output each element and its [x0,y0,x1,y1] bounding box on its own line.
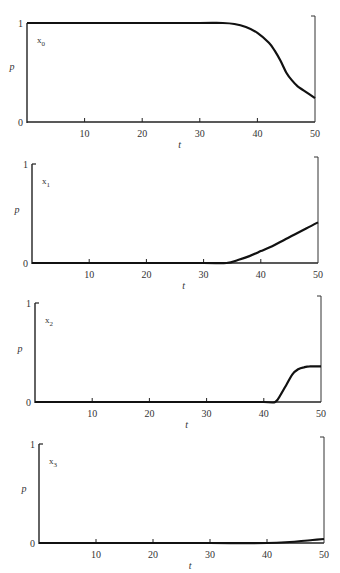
y-axis-title: p [17,343,23,354]
y-axis-title: p [14,204,20,215]
y-tick-label-1: 1 [26,298,31,309]
series-label-subscript: 2 [50,320,54,328]
x-tick-label: 30 [195,128,205,139]
x-tick-label: 50 [313,269,323,280]
y-tick-label-0: 0 [26,397,31,408]
x-tick-label: 20 [137,128,147,139]
x-tick-label: 20 [148,549,158,560]
series-label: x0 [37,35,46,48]
y-tick-label-1: 1 [30,439,35,450]
y-axis-title: p [9,61,15,72]
x-tick-label: 40 [259,408,269,419]
x-tick-label: 40 [262,549,272,560]
figure: 102030405001ptx0102030405001ptx110203040… [0,0,340,573]
x-tick-label: 50 [310,128,320,139]
x-tick-label: 50 [319,549,329,560]
y-tick-label-0: 0 [23,258,28,269]
data-line-x0 [27,23,315,98]
x-axis-title: t [178,139,181,150]
data-line-x2 [35,366,321,402]
panel-x2: 102030405001ptx2 [17,296,327,430]
series-label-subscript: 0 [42,40,46,48]
data-line-x3 [39,539,324,543]
x-tick-label: 20 [144,408,154,419]
data-line-x1 [32,222,318,263]
x-tick-label: 30 [202,408,212,419]
y-tick-label-1: 1 [18,18,23,29]
panel-x1: 102030405001ptx1 [14,157,324,291]
y-tick-label-0: 0 [30,538,35,549]
x-tick-label: 10 [91,549,101,560]
x-tick-label: 30 [199,269,209,280]
x-tick-label: 10 [84,269,94,280]
x-axis-title: t [185,419,188,430]
panel-x3: 102030405001ptx3 [21,437,330,571]
x-axis-title: t [189,560,192,571]
y-axis-title: p [21,483,27,494]
series-label: x2 [45,315,54,328]
x-tick-label: 30 [205,549,215,560]
panel-x0: 102030405001ptx0 [9,16,321,150]
x-tick-label: 10 [80,128,90,139]
x-tick-label: 40 [252,128,262,139]
series-label-subscript: 3 [54,461,58,469]
series-label-subscript: 1 [47,181,51,189]
series-label: x1 [42,176,51,189]
x-tick-label: 10 [87,408,97,419]
series-label: x3 [49,456,58,469]
x-axis-title: t [182,280,185,291]
y-tick-label-1: 1 [23,159,28,170]
y-tick-label-0: 0 [18,117,23,128]
x-tick-label: 50 [316,408,326,419]
x-tick-label: 20 [141,269,151,280]
x-tick-label: 40 [256,269,266,280]
